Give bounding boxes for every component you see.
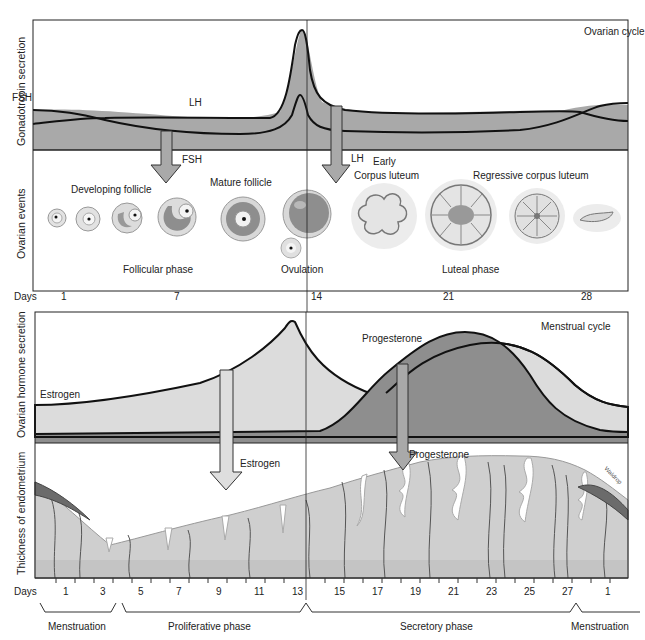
- progesterone-arrow-label: Progesterone: [409, 449, 469, 460]
- artist-signature: Waldrop: [603, 465, 623, 485]
- day-tick: 14: [311, 291, 323, 302]
- menstrual-cycle-title: Menstrual cycle: [541, 321, 611, 332]
- phase-menstruation-next: Menstruation: [571, 621, 629, 632]
- ovarian-cycle-title: Ovarian cycle: [584, 26, 645, 37]
- day-tick: 28: [581, 291, 593, 302]
- day-ticks: [35, 578, 628, 583]
- follicle-icon: [158, 198, 196, 236]
- follicle-icon: [48, 209, 66, 227]
- day-tick: 3: [100, 586, 106, 597]
- hormone-axis-label: Ovarian hormone secretion: [15, 311, 27, 438]
- day-tick: 1: [61, 291, 67, 302]
- ovarian-hormone-chart: Menstrual cycle Estrogen Progesterone: [35, 321, 628, 443]
- lh-arrow-label: LH: [351, 153, 364, 164]
- corpus-luteum-icon: [425, 179, 497, 251]
- day-tick: 7: [176, 586, 182, 597]
- ovulation-label: Ovulation: [281, 264, 323, 275]
- phase-brackets: [40, 603, 640, 612]
- lh-curve-label: LH: [189, 97, 202, 108]
- gonadotropin-axis-label: Gonadotropin secretion: [15, 37, 27, 146]
- day-tick: 7: [174, 291, 180, 302]
- days-label: Days: [14, 586, 37, 597]
- day-tick: 19: [410, 586, 422, 597]
- day-tick: 21: [448, 586, 460, 597]
- endometrium-axis-label: Thickness of endometrium: [15, 452, 27, 575]
- mature-follicle-label: Mature follicle: [210, 177, 272, 188]
- day-tick: 23: [486, 586, 498, 597]
- day-tick: 13: [292, 586, 304, 597]
- progesterone-curve-label: Progesterone: [362, 333, 422, 344]
- days-label: Days: [14, 291, 37, 302]
- corpus-luteum-label: Corpus luteum: [354, 170, 419, 181]
- luteal-phase-label: Luteal phase: [442, 264, 500, 275]
- day-tick: 9: [216, 586, 222, 597]
- ovarian-events-axis-label: Ovarian events: [15, 188, 27, 259]
- day-tick: 21: [443, 291, 455, 302]
- day-tick: 25: [524, 586, 536, 597]
- estrogen-curve-label: Estrogen: [40, 389, 80, 400]
- gonadotropin-chart: Ovarian cycle FSH LH: [12, 26, 645, 150]
- phase-secretory: Secretory phase: [400, 621, 473, 632]
- follicle-icon: [112, 203, 142, 233]
- mature-follicle-icon: [221, 197, 265, 241]
- day-tick: 5: [138, 586, 144, 597]
- endometrium-illustration: Waldrop: [35, 456, 628, 578]
- day-tick: 11: [254, 586, 265, 597]
- day-tick: 1: [63, 586, 69, 597]
- ovulating-follicle-icon: [281, 190, 331, 258]
- day-tick: 1: [605, 586, 611, 597]
- phase-proliferative: Proliferative phase: [168, 621, 251, 632]
- follicle-icon: [76, 207, 100, 231]
- early-corpus-luteum-icon: [351, 183, 417, 249]
- follicular-phase-label: Follicular phase: [123, 264, 193, 275]
- developing-follicle-label: Developing follicle: [71, 184, 152, 195]
- day-tick: 27: [562, 586, 574, 597]
- regressive-corpus-luteum-icon: [509, 188, 565, 244]
- early-label: Early: [373, 156, 396, 167]
- menstrual-cycle-diagram: Ovarian cycle FSH LH FSH LH: [0, 0, 645, 640]
- phase-menstruation: Menstruation: [48, 621, 106, 632]
- day-tick: 15: [334, 586, 346, 597]
- fsh-arrow-label: FSH: [182, 154, 202, 165]
- day-tick: 17: [372, 586, 384, 597]
- corpus-albicans-icon: [573, 204, 621, 232]
- estrogen-arrow-label: Estrogen: [240, 458, 280, 469]
- regressive-corpus-luteum-label: Regressive corpus luteum: [473, 170, 589, 181]
